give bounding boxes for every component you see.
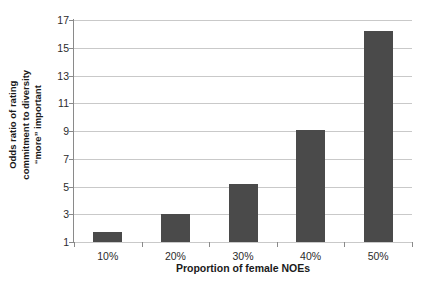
- gridline: [74, 48, 412, 49]
- y-tick-label: 15: [29, 42, 69, 54]
- x-tick-label: 40%: [281, 250, 341, 262]
- x-tick-mark: [277, 242, 278, 247]
- y-tick-label: 9: [29, 125, 69, 137]
- x-tick-mark: [344, 242, 345, 247]
- x-axis-title: Proportion of female NOEs: [74, 262, 412, 274]
- y-tick-mark: [69, 187, 74, 188]
- bar-30pct: [229, 184, 258, 242]
- y-tick-label: 1: [29, 236, 69, 248]
- gridline: [74, 20, 412, 21]
- y-tick-label: 7: [29, 153, 69, 165]
- x-tick-mark: [209, 242, 210, 247]
- y-tick-mark: [69, 20, 74, 21]
- y-tick-label: 13: [29, 70, 69, 82]
- plot-area: 1357911131517 10%20%30%40%50%: [74, 20, 412, 242]
- gridline: [74, 131, 412, 132]
- gridline: [74, 242, 412, 243]
- x-tick-label: 10%: [78, 250, 138, 262]
- y-axis-title-line-1: Odds ratio of rating: [7, 70, 20, 180]
- y-tick-mark: [69, 159, 74, 160]
- x-tick-mark: [142, 242, 143, 247]
- y-tick-mark: [69, 76, 74, 77]
- y-tick-mark: [69, 103, 74, 104]
- bar-20pct: [161, 214, 190, 242]
- x-tick-mark: [412, 242, 413, 247]
- x-tick-label: 30%: [213, 250, 273, 262]
- bar-40pct: [296, 130, 325, 242]
- gridline: [74, 76, 412, 77]
- bar-chart-figure: Odds ratio of rating commitment to diver…: [0, 0, 430, 290]
- bar-10pct: [93, 232, 122, 242]
- gridline: [74, 159, 412, 160]
- y-tick-mark: [69, 48, 74, 49]
- y-tick-label: 17: [29, 14, 69, 26]
- y-tick-label: 11: [29, 97, 69, 109]
- x-tick-label: 50%: [348, 250, 408, 262]
- x-tick-mark: [74, 242, 75, 247]
- y-tick-mark: [69, 214, 74, 215]
- bar-50pct: [364, 31, 393, 242]
- y-tick-label: 3: [29, 208, 69, 220]
- x-tick-label: 20%: [145, 250, 205, 262]
- y-tick-mark: [69, 131, 74, 132]
- y-tick-label: 5: [29, 181, 69, 193]
- gridline: [74, 103, 412, 104]
